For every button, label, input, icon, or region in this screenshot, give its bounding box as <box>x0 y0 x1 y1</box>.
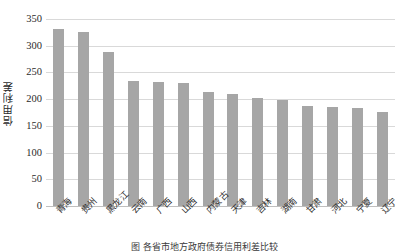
bar-天津[interactable] <box>227 94 238 206</box>
figure-caption: 图 各省市地方政府债券信用利差比较 <box>0 242 409 252</box>
bar-宁夏[interactable] <box>352 108 363 206</box>
y-tick-label-200: 200 <box>12 94 42 104</box>
bar-辽宁[interactable] <box>377 112 388 206</box>
bar-内蒙古[interactable] <box>203 92 214 206</box>
y-tick-label-100: 100 <box>12 148 42 158</box>
y-tick-label-300: 300 <box>12 41 42 51</box>
bar-贵州[interactable] <box>78 32 89 206</box>
bar-甘肃[interactable] <box>302 106 313 206</box>
y-tick-label-0: 0 <box>12 201 42 211</box>
bar-chart-figure: 信用利差 050100150200250300350 青海贵州黑龙江云南广西山西… <box>0 0 409 252</box>
bars-layer <box>46 19 395 206</box>
bar-河北[interactable] <box>327 107 338 206</box>
bar-黑龙江[interactable] <box>103 52 114 206</box>
y-axis-tick-labels: 050100150200250300350 <box>10 19 42 206</box>
y-tick-label-50: 50 <box>12 174 42 184</box>
bar-云南[interactable] <box>128 81 139 206</box>
y-tick-label-250: 250 <box>12 67 42 77</box>
bar-湖南[interactable] <box>277 100 288 206</box>
y-tick-label-150: 150 <box>12 121 42 131</box>
bar-山西[interactable] <box>178 83 189 206</box>
y-tick-label-350: 350 <box>12 14 42 24</box>
bar-广西[interactable] <box>153 82 164 206</box>
x-axis-tick-labels: 青海贵州黑龙江云南广西山西内蒙古天津吉林湖南甘肃河北宁夏辽宁 <box>46 207 395 241</box>
bar-吉林[interactable] <box>252 98 263 206</box>
bar-青海[interactable] <box>53 29 64 206</box>
